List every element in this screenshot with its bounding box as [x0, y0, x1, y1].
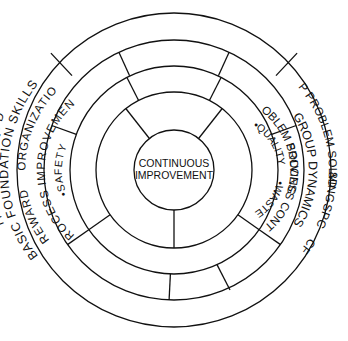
divider-r2-de-right: [218, 52, 229, 76]
divider-r2-8d-right: [217, 265, 230, 290]
divider-r3-reward-group: [238, 215, 259, 230]
core-bullet-safety: •SAFETY: [52, 142, 69, 199]
divider-r2-bfs-de-left: [119, 52, 130, 76]
wheel-svg: BASIC FOUNDATION SKILLS DE QFD TPM CFM 6…: [0, 0, 348, 341]
divider-r2-spc-8d: [169, 274, 170, 300]
divider-r3-reward-top: [209, 77, 221, 100]
divider-r4-pi-left: [126, 109, 150, 139]
divider-r3-org-top: [127, 77, 139, 100]
center-label-line1: CONTINUOUS: [139, 157, 210, 169]
ring2-label-spc: SPC: [313, 202, 335, 231]
continuous-improvement-wheel: BASIC FOUNDATION SKILLS DE QFD TPM CFM 6…: [0, 0, 348, 341]
ring2-label-8d: 8D: [325, 172, 340, 189]
divider-r4-pi-right: [199, 109, 223, 139]
divider-outer-right: [276, 53, 297, 76]
divider-outer-left: [51, 53, 72, 76]
center-label-line2: IMPROVEMENT: [135, 169, 214, 181]
divider-r3-org-group: [89, 215, 110, 230]
